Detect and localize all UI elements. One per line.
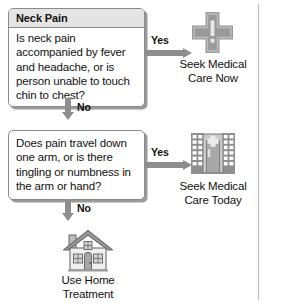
arrow-no-question1 xyxy=(62,98,74,120)
page-divider-rule xyxy=(258,4,259,300)
question-box-text: Is neck pain accompanied by fever and he… xyxy=(9,28,144,106)
house-icon xyxy=(62,228,114,276)
outcome-label-use-home-treatment: Use Home Treatment xyxy=(43,274,133,301)
question-box-header: Neck Pain xyxy=(9,9,144,28)
outcome-label-seek-medical-care-now: Seek Medical Care Now xyxy=(168,58,258,85)
clinic-building-icon xyxy=(191,133,235,179)
neck-pain-flowchart: Neck Pain Is neck pain accompanied by fe… xyxy=(0,0,303,304)
arrow-yes-question1 xyxy=(144,48,192,58)
arrow-no-question2 xyxy=(62,199,74,221)
question-box-text: Does pain travel down one arm, or is the… xyxy=(9,131,144,199)
edge-label-no-question1: No xyxy=(77,101,91,113)
outcome-label-seek-medical-care-today: Seek Medical Care Today xyxy=(168,180,258,207)
question-box-arm-symptoms: Does pain travel down one arm, or is the… xyxy=(8,130,145,200)
question-box-neck-pain: Neck Pain Is neck pain accompanied by fe… xyxy=(8,8,145,107)
edge-label-yes-question1: Yes xyxy=(151,34,169,46)
arrow-yes-question2 xyxy=(144,160,192,170)
edge-label-yes-question2: Yes xyxy=(151,146,169,158)
medical-cross-icon xyxy=(192,12,233,57)
edge-label-no-question2: No xyxy=(77,202,91,214)
